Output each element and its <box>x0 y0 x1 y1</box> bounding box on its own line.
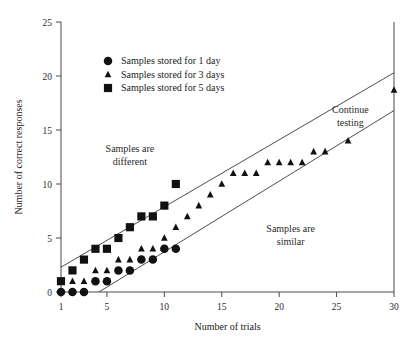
x-tick-label-25: 25 <box>332 302 342 312</box>
legend-marker-square <box>104 84 112 92</box>
y-tick-label-20: 20 <box>43 72 53 82</box>
samples-are-different-line-2: different <box>113 156 147 167</box>
data-point-circle-4 <box>103 277 112 286</box>
legend-item-3[interactable]: Samples stored for 5 days <box>104 82 225 93</box>
chart-canvas: 1510152025300510152025 Samples arediffer… <box>0 0 418 348</box>
data-point-square-7 <box>137 212 145 220</box>
data-point-square-10 <box>172 180 180 188</box>
x-tick-label-1: 1 <box>59 302 64 312</box>
data-point-square-8 <box>149 212 157 220</box>
data-point-circle-2 <box>80 288 89 297</box>
data-point-circle-8 <box>149 255 158 264</box>
legend-label-2: Samples stored for 3 days <box>121 69 224 80</box>
data-point-square-6 <box>126 223 134 231</box>
legend-group: Samples stored for 1 daySamples stored f… <box>104 55 225 93</box>
x-tick-label-5: 5 <box>105 302 110 312</box>
samples-are-similar-line-2: similar <box>277 236 305 247</box>
samples-are-different-line-1: Samples are <box>106 143 155 154</box>
legend-marker-circle <box>104 57 113 66</box>
y-tick-label-0: 0 <box>47 288 52 298</box>
data-point-circle-7 <box>137 255 146 264</box>
legend-item-2[interactable]: Samples stored for 3 days <box>105 69 225 80</box>
data-point-circle-0 <box>57 288 66 297</box>
data-point-square-2 <box>80 256 88 264</box>
data-point-square-1 <box>68 266 76 274</box>
data-point-square-9 <box>160 202 168 210</box>
legend-label-1: Samples stored for 1 day <box>121 55 220 66</box>
legend-label-3: Samples stored for 5 days <box>121 82 224 93</box>
legend-item-1[interactable]: Samples stored for 1 day <box>104 55 221 66</box>
y-tick-label-10: 10 <box>43 180 53 190</box>
data-point-circle-3 <box>91 277 100 286</box>
data-point-circle-6 <box>126 266 135 275</box>
data-point-circle-10 <box>172 245 181 254</box>
y-tick-label-25: 25 <box>43 18 53 28</box>
continue-testing-line-1: Continue <box>332 104 369 115</box>
y-axis-title: Number of correct responses <box>13 99 24 214</box>
x-tick-label-10: 10 <box>160 302 170 312</box>
x-tick-label-30: 30 <box>389 302 399 312</box>
x-tick-label-20: 20 <box>274 302 284 312</box>
y-tick-label-15: 15 <box>43 126 53 136</box>
data-point-circle-1 <box>68 288 77 297</box>
x-tick-label-15: 15 <box>217 302 227 312</box>
data-point-circle-9 <box>160 245 169 254</box>
x-axis-title: Number of trials <box>194 321 260 332</box>
continue-testing-line-2: testing <box>337 117 364 128</box>
data-point-square-5 <box>114 234 122 242</box>
scatter-plot-figure: 1510152025300510152025 Samples arediffer… <box>0 0 418 348</box>
data-point-square-0 <box>57 277 65 285</box>
data-point-circle-5 <box>114 266 123 275</box>
data-point-square-3 <box>91 245 99 253</box>
data-point-square-4 <box>103 245 111 253</box>
samples-are-similar-line-1: Samples are <box>266 223 315 234</box>
y-tick-label-5: 5 <box>47 234 52 244</box>
